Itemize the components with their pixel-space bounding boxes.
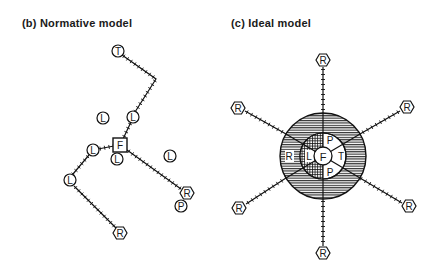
node-l-free-left: L bbox=[97, 112, 109, 124]
node-l-road-upper: L bbox=[127, 111, 139, 123]
node-label: R bbox=[403, 102, 410, 113]
diagram-canvas: T L L F L L L bbox=[0, 0, 441, 266]
zone-label-p-bottom: P bbox=[327, 167, 334, 178]
node-l-under-f: L bbox=[111, 153, 123, 165]
node-r-hex-bottom: R bbox=[113, 227, 127, 239]
node-r-hex-upper-right: R bbox=[400, 101, 414, 113]
node-p: P bbox=[175, 200, 187, 212]
node-r-hex-lower-right: R bbox=[402, 200, 416, 212]
node-label: L bbox=[90, 145, 96, 156]
panel-c: F L R P T P R R R R R R bbox=[231, 54, 416, 259]
node-label: R bbox=[116, 228, 123, 239]
node-r-hex-bottom: R bbox=[316, 247, 330, 259]
node-r-hex-upper-left: R bbox=[231, 102, 245, 114]
node-r-hex-right: R bbox=[180, 187, 194, 199]
panel-b: T L L F L L L bbox=[64, 45, 194, 239]
node-label: R bbox=[183, 188, 190, 199]
node-label: R bbox=[405, 201, 412, 212]
node-l-free-right: L bbox=[164, 150, 176, 162]
zone-label: F bbox=[320, 151, 327, 163]
node-label: P bbox=[178, 201, 185, 212]
node-transport-top: T bbox=[112, 45, 124, 57]
node-label: T bbox=[115, 46, 121, 57]
center-f-zone: F bbox=[314, 147, 332, 165]
node-label: L bbox=[114, 154, 120, 165]
node-label: R bbox=[235, 203, 242, 214]
node-f-square: F bbox=[113, 138, 127, 152]
node-r-hex-top: R bbox=[316, 54, 330, 66]
node-label: R bbox=[234, 103, 241, 114]
node-l-left-of-f: L bbox=[87, 144, 99, 156]
zone-label-r: R bbox=[285, 151, 292, 162]
node-r-hex-lower-left: R bbox=[232, 202, 246, 214]
node-label: F bbox=[117, 140, 123, 151]
zone-label-t: T bbox=[338, 151, 344, 162]
node-label: L bbox=[130, 112, 136, 123]
zone-label-l: L bbox=[306, 151, 312, 162]
zone-label-p-top: P bbox=[327, 135, 334, 146]
node-l-far-left: L bbox=[64, 174, 76, 186]
node-label: L bbox=[100, 113, 106, 124]
node-label: L bbox=[67, 175, 73, 186]
node-label: L bbox=[167, 151, 173, 162]
node-label: R bbox=[319, 248, 326, 259]
node-label: R bbox=[319, 55, 326, 66]
